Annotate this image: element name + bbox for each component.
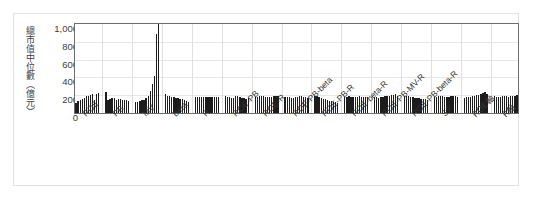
bar [516,95,517,113]
chart-figure: 總市值中位數（億元） 02004006008001,000 ROEPBMVbet… [13,13,519,186]
bar [158,24,159,113]
bar [218,97,219,113]
x-axis-tick-labels: ROEPBMVbetaRROE-PBROE-RROE-PB-betaROE-PB… [74,115,519,185]
y-axis-title: 總市值中位數（億元） [19,26,35,166]
bar [457,97,458,113]
bar [128,101,129,113]
y-axis-tick-labels: 02004006008001,000 [36,18,78,122]
